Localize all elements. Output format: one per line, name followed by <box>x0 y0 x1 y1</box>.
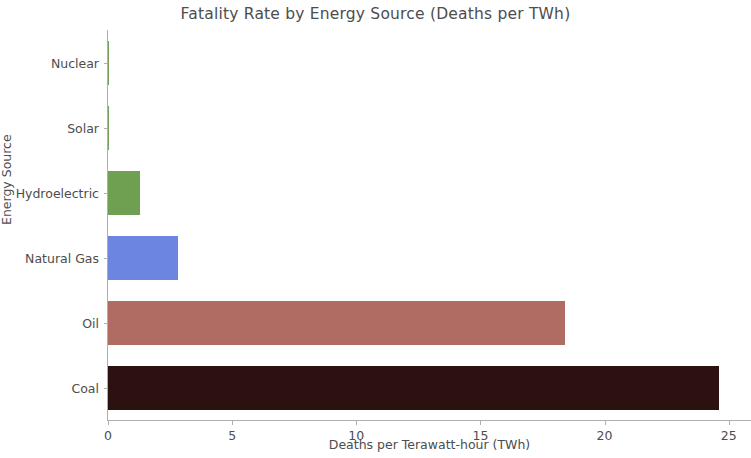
y-tick-mark <box>104 258 108 259</box>
bar-oil <box>108 301 565 345</box>
y-axis-title: Energy Source <box>0 134 14 225</box>
chart-figure: Fatality Rate by Energy Source (Deaths p… <box>0 0 751 458</box>
y-tick-mark <box>104 128 108 129</box>
y-tick-mark <box>104 323 108 324</box>
y-tick-mark <box>104 63 108 64</box>
plot-area: NuclearSolarHydroelectricNatural GasOilC… <box>108 30 751 420</box>
bar-coal <box>108 366 719 410</box>
bar-natural-gas <box>108 236 178 280</box>
x-tick-mark <box>108 421 109 425</box>
x-tick-mark <box>605 421 606 425</box>
y-tick-label-nuclear: Nuclear <box>51 55 99 70</box>
y-tick-label-solar: Solar <box>67 120 99 135</box>
bar-nuclear <box>108 41 109 85</box>
y-tick-mark <box>104 193 108 194</box>
x-tick-mark <box>480 421 481 425</box>
y-tick-label-natural-gas: Natural Gas <box>25 250 99 265</box>
x-axis-title: Deaths per Terawatt-hour (TWh) <box>108 437 751 452</box>
y-tick-label-oil: Oil <box>82 315 99 330</box>
bar-hydroelectric <box>108 171 140 215</box>
y-tick-label-coal: Coal <box>71 380 99 395</box>
y-tick-mark <box>104 388 108 389</box>
x-axis-line <box>107 420 751 421</box>
x-tick-mark <box>356 421 357 425</box>
x-tick-mark <box>729 421 730 425</box>
x-tick-mark <box>232 421 233 425</box>
y-tick-label-hydroelectric: Hydroelectric <box>16 185 99 200</box>
chart-title: Fatality Rate by Energy Source (Deaths p… <box>0 5 751 23</box>
